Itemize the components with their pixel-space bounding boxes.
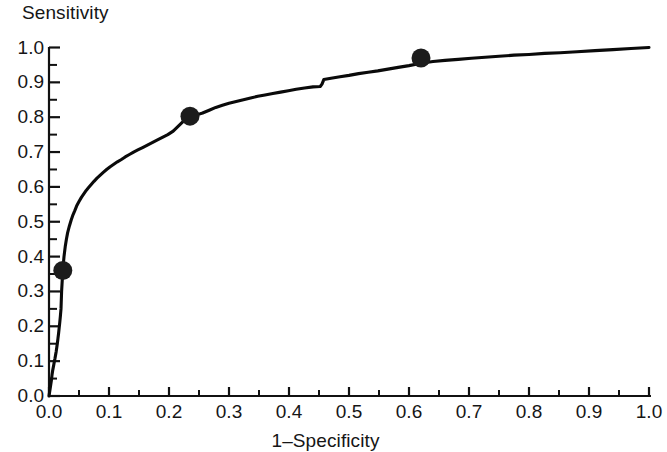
roc-marked-points-group — [53, 48, 430, 280]
roc-marked-point-1 — [53, 261, 72, 280]
roc-curve-line — [49, 48, 649, 397]
roc-marked-point-2 — [181, 107, 200, 126]
axis-ticks-group — [49, 48, 649, 397]
x-axis-title: 1–Specificity — [0, 430, 651, 452]
axes-group — [49, 47, 651, 396]
roc-marked-point-3 — [412, 48, 431, 67]
